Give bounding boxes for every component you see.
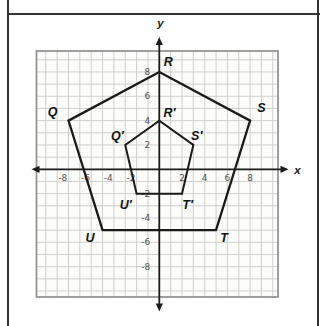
- y-tick-label: 4: [144, 116, 150, 126]
- y-tick-label: -8: [141, 262, 150, 272]
- y-axis-arrow-down: [156, 304, 163, 312]
- y-tick-label: 8: [144, 67, 150, 77]
- vertex-label-T: T: [220, 231, 229, 245]
- vertex-label-R: R: [164, 55, 173, 69]
- coordinate-plane-figure: -8-6-4-224688642-2-4-6-8QRSTUQ′R′S′T′U′x…: [0, 0, 320, 326]
- vertex-label-S-prime: S′: [191, 129, 203, 143]
- vertex-label-T-prime: T′: [182, 198, 194, 212]
- vertex-label-S: S: [257, 101, 266, 115]
- x-axis-label: x: [293, 164, 301, 176]
- worksheet-panel: -8-6-4-224688642-2-4-6-8QRSTUQ′R′S′T′U′x…: [0, 0, 320, 326]
- vertex-label-Q-prime: Q′: [111, 129, 125, 143]
- x-tick-label: -8: [58, 173, 67, 183]
- x-axis-arrow-right: [281, 166, 289, 173]
- x-axis-arrow-left: [32, 166, 40, 173]
- vertex-label-Q: Q: [48, 105, 58, 119]
- y-axis-label: y: [156, 17, 164, 29]
- vertex-label-U: U: [86, 231, 96, 245]
- x-tick-label: 6: [225, 173, 231, 183]
- y-tick-label: -4: [141, 213, 150, 223]
- y-axis-arrow-up: [156, 37, 163, 45]
- y-tick-label: 6: [144, 91, 150, 101]
- x-tick-label: 4: [202, 173, 208, 183]
- y-tick-label: -6: [141, 237, 150, 247]
- grid-paper: [37, 51, 279, 297]
- y-tick-label: 2: [144, 140, 150, 150]
- vertex-label-R-prime: R′: [163, 106, 176, 120]
- vertex-label-U-prime: U′: [120, 198, 133, 212]
- x-tick-label: 8: [247, 173, 253, 183]
- x-tick-label: -4: [104, 173, 113, 183]
